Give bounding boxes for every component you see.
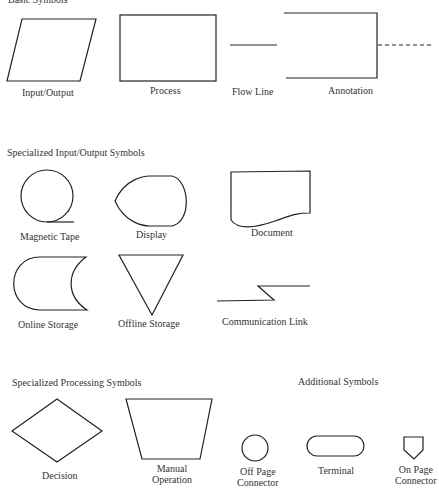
process-symbol xyxy=(120,15,216,81)
label-terminal: Terminal xyxy=(318,465,354,476)
on-page-connector-symbol xyxy=(404,437,423,459)
label-offline-storage: Offline Storage xyxy=(118,318,180,329)
label-magnetic-tape: Magnetic Tape xyxy=(20,231,79,242)
display-symbol xyxy=(115,176,186,226)
label-decision: Decision xyxy=(42,470,78,481)
label-flow-line: Flow Line xyxy=(232,86,273,97)
document-symbol xyxy=(231,171,310,227)
offline-storage-symbol xyxy=(119,255,183,315)
communication-link-symbol xyxy=(217,286,310,301)
label-on-page-connector: On Page Connector xyxy=(395,464,437,486)
label-online-storage: Online Storage xyxy=(18,319,78,330)
section-title-specialized-processing: Specialized Processing Symbols xyxy=(12,377,141,388)
annotation-symbol xyxy=(284,13,377,78)
label-document: Document xyxy=(251,227,293,238)
label-annotation: Annotation xyxy=(328,85,373,96)
label-input-output: Input/Output xyxy=(22,87,74,98)
off-page-connector-symbol xyxy=(242,435,268,461)
label-manual-operation: Manual Operation xyxy=(152,463,192,485)
online-storage-symbol xyxy=(14,257,87,310)
section-title-additional: Additional Symbols xyxy=(298,376,378,387)
section-title-basic: Basic Symbols xyxy=(8,0,68,5)
flowchart-symbols-figure: Basic Symbols Specialized Input/Output S… xyxy=(0,0,439,489)
label-communication-link: Communication Link xyxy=(222,316,308,327)
label-off-page-connector: Off Page Connector xyxy=(237,466,279,488)
terminal-symbol xyxy=(307,436,364,456)
decision-symbol xyxy=(12,399,102,462)
symbols-drawing xyxy=(0,0,439,489)
label-process: Process xyxy=(150,85,181,96)
input-output-symbol xyxy=(7,19,96,81)
magnetic-tape-symbol xyxy=(21,170,73,222)
manual-operation-symbol xyxy=(126,399,212,459)
section-title-specialized-io: Specialized Input/Output Symbols xyxy=(7,147,145,158)
label-display: Display xyxy=(136,229,167,240)
